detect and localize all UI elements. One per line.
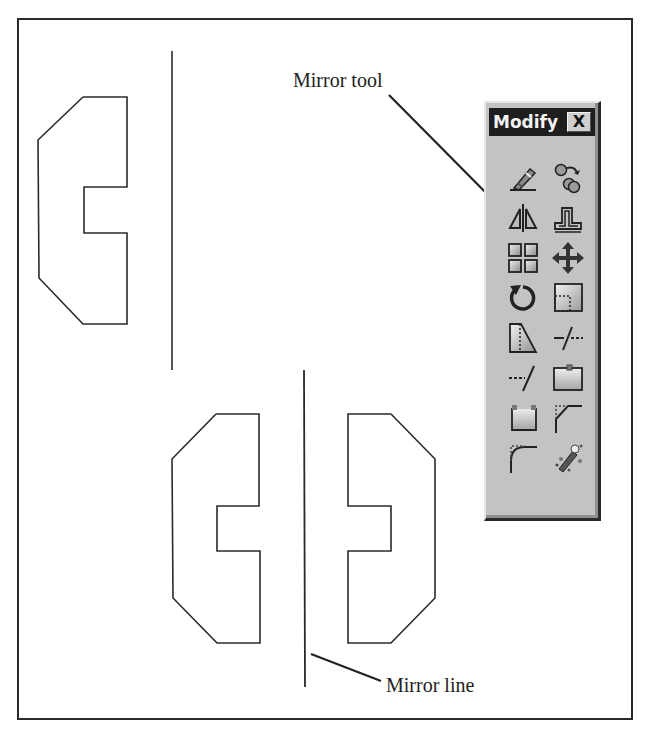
toolbar-title: Modify [493,112,567,132]
mirror-tool-callout: Mirror tool [293,70,382,90]
mirror-line [304,370,305,687]
array-button[interactable] [500,238,545,278]
rotate-icon [506,281,540,315]
scale-icon [551,281,585,315]
array-icon [506,241,540,275]
stretch-icon [506,321,540,355]
break-at-point-button[interactable] [545,358,590,398]
explode-icon [551,441,585,475]
move-icon [551,241,585,275]
toolbar-titlebar[interactable]: Modify X [489,108,595,136]
original-shape [38,97,127,324]
offset-icon [551,201,585,235]
chamfer-icon [551,401,585,435]
scale-button[interactable] [545,278,590,318]
extend-icon [506,361,540,395]
trim-button[interactable] [545,318,590,358]
break-button[interactable] [500,398,545,438]
eraser-icon [506,161,540,195]
copy-icon [551,161,585,195]
move-button[interactable] [545,238,590,278]
erase-button[interactable] [500,158,545,198]
explode-button[interactable] [545,438,590,478]
mirror-button[interactable] [500,198,545,238]
fillet-icon [506,441,540,475]
break-at-point-icon [551,361,585,395]
break-icon [506,401,540,435]
mirror-icon [506,201,540,235]
trim-icon [551,321,585,355]
close-icon: X [573,114,585,130]
mirrored-shape [348,414,435,643]
close-button[interactable]: X [567,112,591,132]
copy-button[interactable] [545,158,590,198]
source-shape [172,414,260,643]
chamfer-button[interactable] [545,398,590,438]
stretch-button[interactable] [500,318,545,358]
mirror-line-callout: Mirror line [386,675,474,695]
extend-button[interactable] [500,358,545,398]
rotate-button[interactable] [500,278,545,318]
fillet-button[interactable] [500,438,545,478]
modify-toolbar[interactable]: Modify X [484,101,601,521]
mirror-line-leader [311,654,381,681]
offset-button[interactable] [545,198,590,238]
tool-grid [500,158,590,478]
